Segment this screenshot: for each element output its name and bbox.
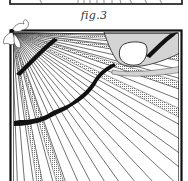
- figure-3-illustration: fig.3: [0, 0, 188, 181]
- previous-figure-edge: [10, 0, 182, 4]
- figure-caption: fig.3: [0, 9, 188, 22]
- illustration-canvas: [0, 0, 188, 181]
- thumb-nail: [119, 42, 147, 65]
